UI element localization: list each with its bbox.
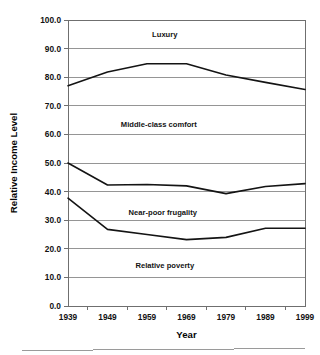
x-axis-ticks: [88, 306, 286, 310]
y-tick-label: 30.0: [45, 215, 62, 225]
x-tick-label: 1989: [256, 312, 275, 322]
y-axis-title: Relative Income Level: [8, 113, 19, 213]
y-tick-label: 50.0: [45, 158, 62, 168]
y-tick-label: 90.0: [45, 44, 62, 54]
band-label: Middle-class comfort: [121, 120, 197, 129]
y-axis-tick-labels: 0.010.020.030.040.050.060.070.080.090.01…: [40, 15, 61, 311]
y-tick-label: 10.0: [45, 272, 62, 282]
relative-income-level-line-chart: 0.010.020.030.040.050.060.070.080.090.01…: [0, 0, 320, 355]
series-line-lower-boundary: [68, 198, 305, 239]
series-line-upper-boundary: [68, 64, 305, 90]
x-tick-label: 1999: [296, 312, 315, 322]
x-axis-title: Year: [176, 329, 197, 340]
y-tick-label: 40.0: [45, 187, 62, 197]
footer-divider: [22, 349, 305, 351]
band-label: Near-poor frugality: [129, 208, 198, 217]
x-tick-label: 1949: [98, 312, 117, 322]
x-tick-label: 1979: [217, 312, 236, 322]
band-label: Luxury: [152, 30, 178, 39]
band-label: Relative poverty: [135, 261, 194, 270]
y-tick-label: 0.0: [49, 301, 61, 311]
x-tick-label: 1969: [177, 312, 196, 322]
x-tick-label: 1939: [59, 312, 78, 322]
y-tick-label: 70.0: [45, 101, 62, 111]
y-tick-label: 100.0: [40, 15, 61, 25]
x-tick-label: 1959: [138, 312, 157, 322]
x-axis-tick-labels: 1939194919591969197919891999: [59, 312, 315, 322]
y-tick-label: 60.0: [45, 129, 62, 139]
chart-figure: 0.010.020.030.040.050.060.070.080.090.01…: [0, 0, 320, 355]
y-tick-label: 20.0: [45, 244, 62, 254]
series-line-middle-boundary: [68, 163, 305, 194]
y-tick-label: 80.0: [45, 72, 62, 82]
